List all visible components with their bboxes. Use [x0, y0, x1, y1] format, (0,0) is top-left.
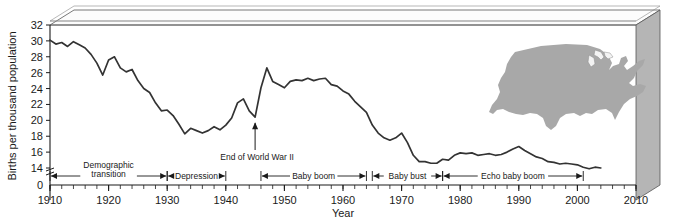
us-map-icon	[489, 44, 646, 130]
y-tick-label-zero: 0	[37, 179, 43, 191]
x-tick-label: 1960	[331, 194, 355, 206]
x-tick-label: 1910	[38, 194, 62, 206]
y-axis-title: Births per thousand population	[6, 31, 18, 180]
x-tick-label: 2000	[565, 194, 589, 206]
chart-figure: 141618202224262830320 191019201930194019…	[0, 0, 675, 224]
end-of-wwii-annotation: End of World War II	[220, 122, 294, 162]
period-bracket: Echo baby boom	[443, 171, 584, 181]
period-bracket-label: Echo baby boom	[481, 171, 545, 181]
period-bracket-label: Baby bust	[389, 171, 427, 181]
x-tick-label: 1930	[155, 194, 179, 206]
period-brackets: DemographictransitionDepressionBaby boom…	[50, 160, 583, 181]
x-tick-label: 2010	[624, 194, 648, 206]
period-bracket: Demographictransition	[50, 160, 167, 181]
birth-rate-line-chart: 141618202224262830320 191019201930194019…	[0, 0, 675, 224]
y-tick-label: 16	[31, 146, 43, 158]
x-tick-label: 1950	[272, 194, 296, 206]
y-tick-label: 24	[31, 83, 43, 95]
period-bracket: Depression	[167, 171, 226, 181]
x-tick-label: 1940	[214, 194, 238, 206]
period-bracket: Baby boom	[261, 171, 366, 181]
period-bracket-label: Depression	[175, 171, 218, 181]
x-tick-label: 1990	[507, 194, 531, 206]
y-tick-label: 22	[31, 98, 43, 110]
y-tick-label: 32	[31, 19, 43, 31]
x-tick-label: 1970	[389, 194, 413, 206]
end-of-wwii-label: End of World War II	[220, 152, 294, 162]
period-bracket-label-line2: transition	[91, 169, 126, 179]
x-axis-major-ticks	[50, 185, 636, 191]
y-axis-tick-labels: 141618202224262830320	[31, 19, 43, 191]
y-axis-ticks	[46, 25, 50, 168]
y-tick-label: 20	[31, 114, 43, 126]
x-tick-label: 1980	[448, 194, 472, 206]
x-axis-tick-labels: 1910192019301940195019601970198019902000…	[38, 194, 648, 206]
period-bracket-label: Baby boom	[292, 171, 335, 181]
period-bracket: Baby bust	[372, 171, 442, 181]
y-tick-label: 18	[31, 130, 43, 142]
y-tick-label: 30	[31, 35, 43, 47]
y-tick-label: 14	[31, 162, 43, 174]
x-axis-title: Year	[332, 207, 355, 219]
y-tick-label: 28	[31, 51, 43, 63]
y-tick-label: 26	[31, 67, 43, 79]
x-tick-label: 1920	[96, 194, 120, 206]
